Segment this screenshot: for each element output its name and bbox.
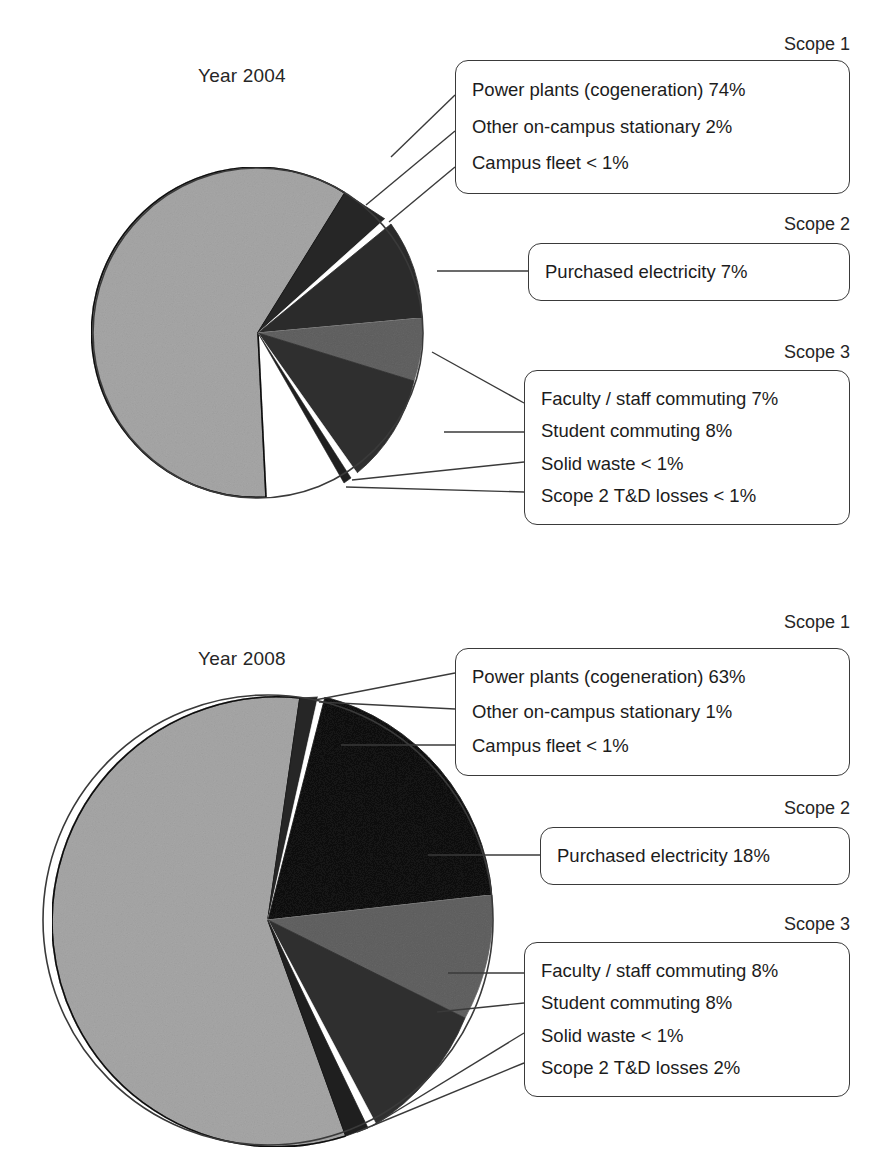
leader-2004-power-plants (391, 95, 455, 157)
scope-title-1-2008: Scope 1 (620, 612, 850, 633)
callout-row: Other on-campus stationary 2% (472, 109, 849, 146)
callout-row: Scope 2 T&D losses 2% (541, 1052, 849, 1085)
year-label-2008: Year 2008 (198, 648, 286, 670)
callout-scope-3-2004[interactable]: Faculty / staff commuting 7% Student com… (524, 370, 850, 525)
scope-title-3-2004: Scope 3 (620, 342, 850, 363)
callout-scope-3-2008[interactable]: Faculty / staff commuting 8% Student com… (524, 942, 850, 1097)
callout-row: Purchased electricity 18% (557, 847, 849, 866)
callout-row: Campus fleet < 1% (472, 145, 849, 182)
year-label-2004: Year 2004 (198, 65, 286, 87)
callout-row: Student commuting 8% (541, 987, 849, 1020)
callout-scope-1-2004[interactable]: Power plants (cogeneration) 74% Other on… (455, 60, 850, 194)
callout-row: Purchased electricity 7% (545, 263, 849, 282)
callout-row: Faculty / staff commuting 8% (541, 955, 849, 988)
callout-row: Campus fleet < 1% (472, 729, 849, 764)
emissions-pie-figure: Year 2004 Year 2008 Scope 1 Power plants… (0, 0, 875, 1167)
leader-2004-solid-waste (352, 462, 524, 480)
callout-scope-1-2008[interactable]: Power plants (cogeneration) 63% Other on… (455, 648, 850, 776)
scope-title-3-2008: Scope 3 (620, 914, 850, 935)
callout-row: Solid waste < 1% (541, 448, 849, 481)
scope-title-1-2004: Scope 1 (620, 34, 850, 55)
scope-title-2-2008: Scope 2 (620, 798, 850, 819)
callout-row: Other on-campus stationary 1% (472, 695, 849, 730)
callout-scope-2-2004[interactable]: Purchased electricity 7% (528, 243, 850, 301)
callout-row: Solid waste < 1% (541, 1020, 849, 1053)
callout-row: Student commuting 8% (541, 415, 849, 448)
scope-title-2-2004: Scope 2 (620, 214, 850, 235)
leader-2004-td-losses (346, 487, 524, 492)
callout-row: Power plants (cogeneration) 74% (472, 72, 849, 109)
callout-row: Faculty / staff commuting 7% (541, 383, 849, 416)
callout-row: Power plants (cogeneration) 63% (472, 660, 849, 695)
leader-2008-power-plants (315, 673, 455, 700)
leader-2004-faculty-staff-commuting (432, 352, 524, 403)
leader-2004-campus-fleet (389, 167, 455, 222)
callout-row: Scope 2 T&D losses < 1% (541, 480, 849, 513)
callout-scope-2-2008[interactable]: Purchased electricity 18% (540, 827, 850, 885)
leader-2004-other-stationary (366, 131, 455, 205)
